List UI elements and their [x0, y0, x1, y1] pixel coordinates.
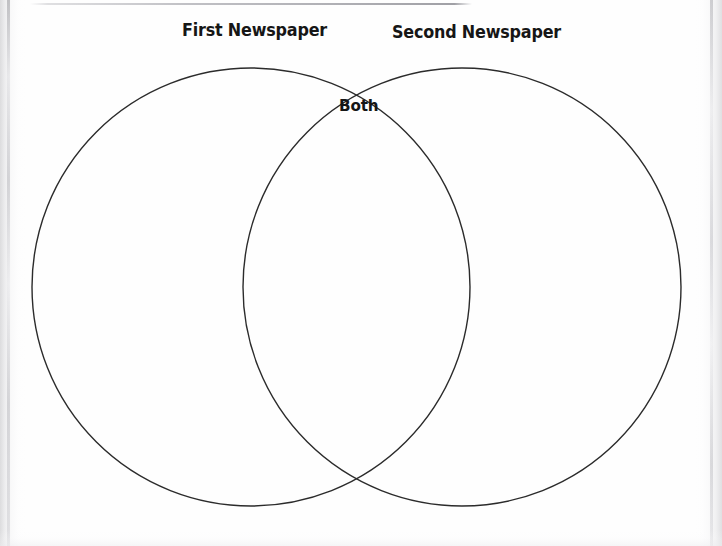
venn-label-overlap: Both — [339, 96, 378, 115]
worksheet-page: First Newspaper Second Newspaper Both — [0, 0, 722, 546]
venn-circle-right[interactable] — [243, 68, 681, 506]
venn-label-left: First Newspaper — [182, 20, 327, 40]
venn-label-right: Second Newspaper — [392, 22, 561, 42]
venn-circle-left[interactable] — [32, 68, 470, 506]
venn-diagram — [0, 0, 722, 546]
